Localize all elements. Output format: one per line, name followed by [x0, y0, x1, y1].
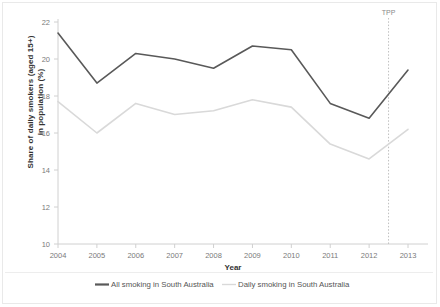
x-tick-label: 2006 [127, 251, 144, 260]
y-tick-label: 18 [42, 92, 50, 101]
x-tick-label: 2005 [89, 251, 106, 260]
y-tick-label: 22 [42, 18, 50, 27]
legend-label-1: Daily smoking in South Australia [238, 280, 350, 289]
legend-divider [5, 272, 433, 273]
legend-label-0: All smoking in South Australia [111, 280, 214, 289]
series-line-daily-smoking [58, 100, 408, 159]
x-tick-label: 2013 [400, 251, 417, 260]
x-tick-label: 2008 [205, 251, 222, 260]
y-tick-label: 12 [42, 203, 50, 212]
x-tick-label: 2009 [244, 251, 261, 260]
x-tick-label: 2007 [166, 251, 183, 260]
x-tick-label: 2010 [283, 251, 300, 260]
chart-figure: Share of daily smokers (aged 15+) in pop… [0, 0, 440, 307]
annotation-label-tpp: TPP [382, 9, 396, 16]
x-axis-title: Year [225, 263, 242, 272]
y-tick-label: 20 [42, 55, 50, 64]
line-chart-plot: 1012141618202220042005200620072008200920… [0, 0, 440, 307]
y-tick-label: 10 [42, 240, 50, 249]
y-tick-label: 16 [42, 129, 50, 138]
x-tick-label: 2004 [50, 251, 67, 260]
x-tick-label: 2012 [361, 251, 378, 260]
y-tick-label: 14 [42, 166, 50, 175]
x-tick-label: 2011 [322, 251, 338, 260]
